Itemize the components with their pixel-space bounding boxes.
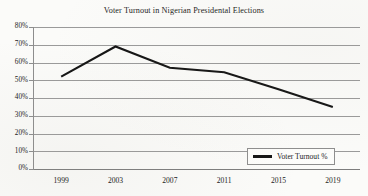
legend-line-swatch-icon (253, 155, 272, 157)
x-tick-label: 2011 (204, 176, 244, 185)
x-tick-label: 2015 (259, 176, 299, 185)
y-tick-label: 0% (0, 164, 28, 172)
y-tick-mark (29, 27, 33, 28)
y-tick-label: 20% (0, 129, 28, 137)
legend-label: Voter Turnout % (277, 152, 328, 161)
y-tick-mark (29, 98, 33, 99)
y-tick-label: 50% (0, 76, 28, 84)
y-tick-mark (29, 169, 33, 170)
y-tick-label: 40% (0, 93, 28, 101)
y-tick-label: 30% (0, 111, 28, 119)
y-tick-mark (29, 45, 33, 46)
gridline-0% (34, 169, 360, 170)
x-tick-label: 1999 (41, 176, 81, 185)
x-tick-label: 2003 (96, 176, 136, 185)
y-tick-mark (29, 116, 33, 117)
y-tick-mark (29, 151, 33, 152)
y-tick-mark (29, 134, 33, 135)
line-chart: Voter Turnout in Nigerian Presidental El… (0, 0, 368, 196)
x-tick-label: 2019 (313, 176, 353, 185)
y-tick-mark (29, 80, 33, 81)
x-tick-label: 2007 (150, 176, 190, 185)
chart-legend: Voter Turnout % (247, 148, 335, 165)
y-tick-mark (29, 63, 33, 64)
y-tick-label: 80% (0, 22, 28, 30)
y-tick-label: 60% (0, 58, 28, 66)
y-tick-label: 10% (0, 147, 28, 155)
series-line-voter-turnout (61, 47, 333, 107)
chart-title: Voter Turnout in Nigerian Presidental El… (0, 6, 368, 15)
y-tick-label: 70% (0, 40, 28, 48)
